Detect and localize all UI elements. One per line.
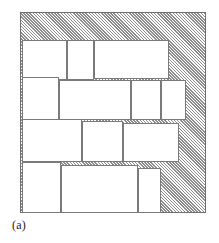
piece-3-3 xyxy=(123,123,179,162)
piece-2-3 xyxy=(131,80,161,120)
piece-4-2 xyxy=(61,165,138,213)
piece-1-3 xyxy=(94,40,169,79)
figure-caption: (a) xyxy=(12,218,26,232)
piece-1-2 xyxy=(67,40,94,80)
piece-2-4 xyxy=(161,80,186,120)
piece-4-3 xyxy=(138,168,161,213)
piece-1-1 xyxy=(22,40,67,80)
piece-2-2 xyxy=(59,80,131,120)
piece-3-1 xyxy=(22,119,82,162)
stock-sheet-container xyxy=(20,12,206,213)
piece-3-2 xyxy=(82,121,123,162)
figure-root: (a) xyxy=(0,0,219,243)
piece-2-1 xyxy=(22,77,59,120)
piece-4-1 xyxy=(22,162,61,213)
